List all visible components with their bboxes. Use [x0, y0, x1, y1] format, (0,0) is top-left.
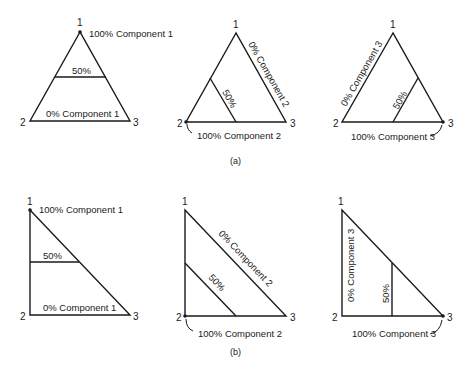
- side-label-a3: 0% Component 3: [338, 39, 384, 108]
- mid-label-b3: 50%: [380, 283, 391, 303]
- vertex-dot-b2: [183, 314, 187, 318]
- vertex-dot-a3: [441, 120, 445, 124]
- vertex-dot-b1: [28, 208, 32, 212]
- panel-b1: 1 2 3 100% Component 1 50% 0% Component …: [20, 196, 139, 322]
- vertex-3-label: 3: [290, 118, 296, 129]
- mid-label-a2: 50%: [220, 88, 239, 110]
- vertex-dot-a2: [184, 120, 188, 124]
- mid-label-b2: 50%: [207, 272, 228, 294]
- vertex-1-label: 1: [182, 196, 188, 207]
- panel-a3: 1 2 3 0% Component 3 50% 100% Component …: [333, 19, 454, 142]
- vertex-dot-a1: [78, 30, 82, 34]
- corner-label-a3: 100% Component 3: [351, 131, 435, 142]
- panel-a1: 1 2 3 100% Component 1 50% 0% Component …: [20, 17, 173, 128]
- top-label-a1: 100% Component 1: [89, 28, 173, 39]
- vertex-3-label: 3: [133, 117, 139, 128]
- base-label-a1: 0% Component 1: [46, 108, 119, 119]
- side-label-b2: 0% Component 2: [217, 228, 276, 289]
- vertex-2-label: 2: [176, 312, 182, 323]
- vertex-2-label: 2: [333, 118, 339, 129]
- vertex-1-label: 1: [77, 17, 83, 28]
- side-label-b3: 0% Component 3: [345, 229, 356, 302]
- vertex-dot-b3: [441, 314, 445, 318]
- fifty-percent-line-b2: [185, 263, 236, 316]
- vertex-3-label: 3: [447, 312, 453, 323]
- vertex-2-label: 2: [332, 312, 338, 323]
- vertex-3-label: 3: [133, 311, 139, 322]
- mid-label-a1: 50%: [72, 65, 92, 76]
- side-label-a2: 0% Component 2: [246, 40, 292, 109]
- vertex-1-label: 1: [233, 19, 239, 30]
- arrow-b2: [186, 319, 193, 331]
- triangle-b2: [185, 210, 286, 316]
- corner-label-a2: 100% Component 2: [197, 130, 281, 141]
- vertex-3-label: 3: [290, 312, 296, 323]
- vertex-2-label: 2: [177, 118, 183, 129]
- vertex-1-label: 1: [338, 196, 344, 207]
- panel-a2: 1 2 3 0% Component 2 50% 100% Component …: [177, 19, 296, 141]
- base-label-b1: 0% Component 1: [43, 302, 116, 313]
- vertex-2-label: 2: [20, 311, 26, 322]
- corner-label-b3: 100% Component 3: [352, 328, 436, 339]
- panel-b3: 1 2 3 0% Component 3 50% 100% Component …: [332, 196, 453, 339]
- arrow-a2: [187, 124, 192, 133]
- corner-label-b2: 100% Component 2: [198, 328, 282, 339]
- caption-a: (a): [230, 156, 241, 166]
- mid-label-b1: 50%: [43, 250, 63, 261]
- top-label-b1: 100% Component 1: [39, 204, 123, 215]
- mid-label-a3: 50%: [390, 89, 409, 111]
- vertex-1-label: 1: [390, 19, 396, 30]
- panel-b2: 1 2 3 0% Component 2 50% 100% Component …: [176, 196, 296, 339]
- vertex-2-label: 2: [20, 117, 26, 128]
- caption-b: (b): [230, 347, 241, 357]
- ternary-diagram-figure: 1 2 3 100% Component 1 50% 0% Component …: [0, 0, 474, 376]
- vertex-3-label: 3: [448, 118, 454, 129]
- vertex-1-label: 1: [27, 196, 33, 207]
